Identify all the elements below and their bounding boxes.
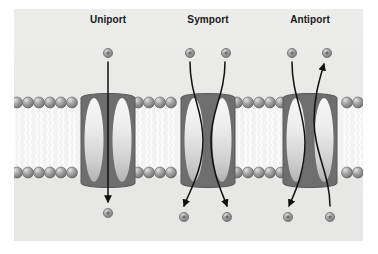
symport-solute-bottom-right	[222, 212, 231, 221]
label-symport: Symport	[187, 14, 228, 25]
antiport-solute-bottom-left	[283, 212, 292, 221]
antiport-solute-top-left	[287, 48, 296, 57]
symport-solute-top-left	[185, 48, 194, 57]
antiport-solute-bottom-right	[325, 212, 334, 221]
uniport-lobe-left	[85, 98, 104, 182]
symport-solute-bottom-left	[179, 212, 188, 221]
symport-solute-top-right	[221, 48, 230, 57]
label-uniport: Uniport	[90, 14, 126, 25]
symport-lobe-left	[185, 98, 204, 182]
uniport-solute-bottom	[103, 208, 112, 217]
label-antiport: Antiport	[290, 14, 330, 25]
antiport-protein	[283, 94, 337, 188]
uniport-solute-top	[103, 48, 112, 57]
antiport-solute-top-right	[322, 48, 331, 57]
uniport-lobe-right	[113, 98, 132, 182]
symport-protein	[181, 94, 235, 188]
transport-proteins	[81, 94, 337, 188]
diagram-canvas	[0, 0, 378, 254]
membrane-transport-diagram: Uniport Symport Antiport	[0, 0, 378, 254]
